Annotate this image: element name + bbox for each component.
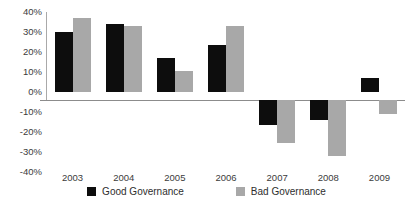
legend-item: Good Governance <box>87 186 184 197</box>
y-axis-tick-label: -40% <box>2 167 42 177</box>
x-axis-tick-label: 2006 <box>200 172 251 183</box>
legend-label: Good Governance <box>102 186 184 197</box>
bar-2003-good <box>55 32 73 92</box>
y-axis-tick-label: -20% <box>2 127 42 137</box>
bar-2004-bad <box>124 26 142 92</box>
y-axis-tick-labels: 40%30%20%10%0%-10%-20%-30%-40% <box>0 0 42 212</box>
legend-label: Bad Governance <box>251 186 326 197</box>
x-axis-tick-label: 2005 <box>149 172 200 183</box>
bar-2006-good <box>208 45 226 92</box>
y-axis-tick-label: -30% <box>2 147 42 157</box>
y-axis-tick-label: -10% <box>2 107 42 117</box>
legend-item: Bad Governance <box>236 186 326 197</box>
bar-2008-good <box>310 100 328 120</box>
bar-2005-good <box>157 58 175 92</box>
x-axis-tick-label: 2003 <box>47 172 98 183</box>
bar-2008-bad <box>328 100 346 156</box>
legend-swatch-bad <box>236 187 245 196</box>
bar-2007-bad <box>277 100 295 143</box>
bar-2007-good <box>259 100 277 125</box>
chart-legend: Good GovernanceBad Governance <box>0 186 413 197</box>
bar-2003-bad <box>73 18 91 92</box>
y-axis-tick-label: 0% <box>2 87 42 97</box>
y-axis-tick-label: 30% <box>2 27 42 37</box>
legend-swatch-good <box>87 187 96 196</box>
y-axis-tick-label: 10% <box>2 67 42 77</box>
x-axis-tick-label: 2008 <box>303 172 354 183</box>
plot-area: 2003200420052006200720082009 <box>47 12 405 172</box>
bar-chart: 40%30%20%10%0%-10%-20%-30%-40% 200320042… <box>0 0 413 212</box>
bar-2009-bad <box>379 100 397 114</box>
bar-2009-good <box>361 78 379 92</box>
bar-2004-good <box>106 24 124 92</box>
x-axis-tick-label: 2004 <box>98 172 149 183</box>
bar-2005-bad <box>175 71 193 92</box>
y-axis-tick-label: 20% <box>2 47 42 57</box>
bar-2006-bad <box>226 26 244 92</box>
x-axis-tick-label: 2009 <box>354 172 405 183</box>
x-axis-tick-label: 2007 <box>252 172 303 183</box>
y-axis-tick-label: 40% <box>2 7 42 17</box>
